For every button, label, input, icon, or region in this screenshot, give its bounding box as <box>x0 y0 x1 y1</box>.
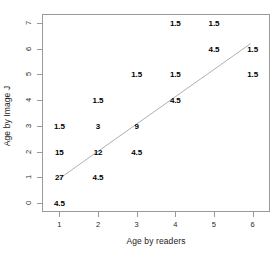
y-tick-mark <box>37 49 42 50</box>
y-tick-label: 0 <box>24 195 34 211</box>
data-point-label: 1.5 <box>247 70 258 79</box>
x-axis-title: Age by readers <box>42 236 270 246</box>
regression-line <box>42 14 270 212</box>
data-point-label: 4.5 <box>93 173 104 182</box>
data-point-label: 4.5 <box>54 199 65 208</box>
y-tick-label: 2 <box>24 144 34 160</box>
data-point-label: 4.5 <box>170 96 181 105</box>
y-tick-label: 7 <box>24 15 34 31</box>
x-tick-mark <box>98 212 99 217</box>
y-tick-mark <box>37 23 42 24</box>
x-tick-mark <box>214 212 215 217</box>
x-tick-label: 4 <box>167 220 183 229</box>
x-tick-label: 6 <box>245 220 261 229</box>
y-tick-label: 5 <box>24 66 34 82</box>
x-tick-mark <box>137 212 138 217</box>
x-tick-label: 3 <box>129 220 145 229</box>
data-point-label: 1.5 <box>170 70 181 79</box>
x-tick-mark <box>253 212 254 217</box>
y-tick-mark <box>37 152 42 153</box>
y-axis-title: Age by Image J <box>0 0 14 232</box>
data-point-label: 12 <box>94 147 103 156</box>
y-tick-mark <box>37 177 42 178</box>
y-tick-label: 1 <box>24 169 34 185</box>
data-point-label: 3 <box>96 121 100 130</box>
data-point-label: 1.5 <box>54 121 65 130</box>
data-point-label: 9 <box>134 121 138 130</box>
y-tick-label: 4 <box>24 92 34 108</box>
data-point-label: 4.5 <box>131 147 142 156</box>
y-tick-label: 6 <box>24 41 34 57</box>
data-point-label: 1.5 <box>209 19 220 28</box>
y-tick-label: 3 <box>24 118 34 134</box>
data-point-label: 1.5 <box>93 96 104 105</box>
x-tick-label: 2 <box>90 220 106 229</box>
x-tick-label: 1 <box>51 220 67 229</box>
y-tick-mark <box>37 203 42 204</box>
x-tick-mark <box>59 212 60 217</box>
data-point-label: 27 <box>55 173 64 182</box>
x-tick-label: 5 <box>206 220 222 229</box>
y-tick-mark <box>37 74 42 75</box>
data-point-label: 1.5 <box>170 19 181 28</box>
data-point-label: 4.5 <box>209 44 220 53</box>
scatter-plot-figure: Age by Image J 01234567 123456 4.5274.51… <box>0 0 279 257</box>
y-tick-mark <box>37 126 42 127</box>
y-tick-mark <box>37 100 42 101</box>
data-point-label: 15 <box>55 147 64 156</box>
x-tick-mark <box>175 212 176 217</box>
data-point-label: 1.5 <box>247 44 258 53</box>
data-point-label: 1.5 <box>131 70 142 79</box>
